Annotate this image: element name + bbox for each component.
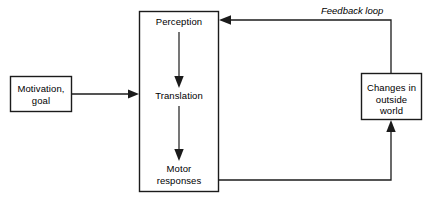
feedback-loop-label: Feedback loop	[321, 5, 383, 16]
edge-motor-to-changes	[219, 120, 396, 180]
node-changes-box[interactable]	[362, 74, 422, 120]
diagram-vector-layer	[0, 0, 434, 201]
edge-motivation-to-process	[72, 89, 139, 98]
node-motivation-box[interactable]	[11, 77, 72, 112]
edge-changes-to-perception	[219, 15, 391, 73]
diagram-canvas: Motivation, goal Perception Translation …	[0, 0, 434, 201]
